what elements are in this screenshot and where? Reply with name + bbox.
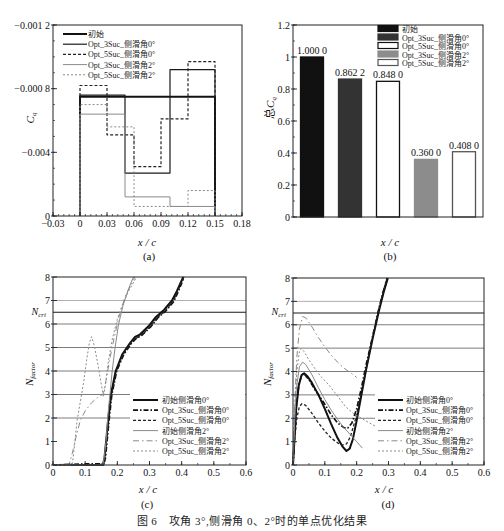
x-tick-label: 0.3 bbox=[382, 467, 395, 478]
y-tick-label: 1.2 bbox=[278, 20, 291, 31]
legend: 初始Opt_3Suc_侧滑角0°Opt_5Suc_侧滑角0°Opt_3Suc_侧… bbox=[378, 24, 469, 68]
y-tick-label: 6 bbox=[285, 319, 290, 330]
y-tick-label: 8 bbox=[285, 273, 290, 284]
legend-item: 初始 bbox=[63, 29, 104, 39]
bar bbox=[301, 57, 324, 217]
panel-d-ncri-label: Ncri bbox=[272, 307, 286, 319]
data-series-line bbox=[80, 114, 215, 216]
panel-d-x-axis-label: x / c bbox=[375, 484, 393, 495]
panel-c-ncri-label: Ncri bbox=[32, 307, 46, 319]
y-tick-label: 0 bbox=[45, 211, 50, 222]
y-tick-label: 0 bbox=[45, 460, 50, 471]
legend-label: Opt_3Suc_侧滑角2° bbox=[88, 60, 155, 70]
legend-label: Opt_5Suc_侧滑角2° bbox=[402, 58, 469, 68]
x-tick-label: 0.2 bbox=[111, 467, 124, 478]
legend-label: 初始 bbox=[402, 24, 418, 34]
y-tick-label: 7 bbox=[45, 295, 50, 306]
legend-swatch bbox=[378, 51, 398, 57]
x-tick-label: 0.1 bbox=[79, 467, 92, 478]
legend: 初始Opt_3Suc_侧滑角0°Opt_5Suc_侧滑角0°Opt_3Suc_侧… bbox=[63, 29, 155, 80]
y-tick-label: 4 bbox=[45, 366, 50, 377]
legend-label: Opt_5Suc_侧滑角2° bbox=[162, 446, 229, 456]
legend-label: 初始侧滑角2° bbox=[406, 426, 453, 436]
legend-label: Opt_3Suc_侧滑角0° bbox=[402, 33, 469, 43]
legend-label: Opt_3Suc_侧滑角0° bbox=[88, 39, 155, 49]
x-tick-label: 0 bbox=[291, 467, 296, 478]
legend: 初始侧滑角0°Opt_3Suc_侧滑角0°Opt_5Suc_侧滑角0°初始侧滑角… bbox=[130, 394, 245, 458]
legend-swatch bbox=[378, 26, 398, 32]
legend-item: 初始 bbox=[378, 24, 418, 34]
y-tick-label: 4 bbox=[285, 366, 290, 377]
panel-d-y-axis-label: Nfactor bbox=[262, 362, 275, 386]
data-series-line bbox=[80, 62, 215, 216]
panel-d-label: (d) bbox=[382, 499, 395, 510]
panel-a-x-axis-label: x / c bbox=[138, 237, 156, 248]
legend-item: Opt_3Suc_侧滑角0° bbox=[378, 33, 469, 43]
panel-a-label: (a) bbox=[143, 251, 155, 262]
legend-label: Opt_5Suc_侧滑角2° bbox=[88, 70, 155, 80]
x-tick-label: 0.5 bbox=[446, 467, 459, 478]
legend-item: Opt_3Suc_侧滑角2° bbox=[378, 50, 469, 60]
y-tick-label: 5 bbox=[285, 343, 290, 354]
legend-item: Opt_5Suc_侧滑角0° bbox=[378, 41, 469, 51]
x-tick-label: 0.2 bbox=[350, 467, 363, 478]
y-tick-label: 0.6 bbox=[278, 116, 291, 127]
bar-value-label: 0.848 0 bbox=[373, 69, 403, 80]
legend-label: Opt_3Suc_侧滑角2° bbox=[162, 436, 229, 446]
y-tick-label: 0.8 bbox=[278, 84, 291, 95]
legend-label: 初始侧滑角2° bbox=[162, 426, 209, 436]
y-tick-label: 8 bbox=[45, 272, 50, 283]
legend-swatch bbox=[378, 34, 398, 40]
legend-label: Opt_5Suc_侧滑角0° bbox=[406, 415, 473, 425]
legend-label: Opt_5Suc_侧滑角0° bbox=[162, 415, 229, 425]
y-tick-label: 3 bbox=[45, 389, 50, 400]
y-tick-label: −0.001 2 bbox=[14, 20, 50, 31]
y-tick-label: 2 bbox=[285, 413, 290, 424]
legend-item: Opt_5Suc_侧滑角0° bbox=[63, 49, 155, 59]
bar-value-label: 1.000 0 bbox=[297, 45, 327, 56]
y-tick-label: 0.2 bbox=[278, 180, 291, 191]
x-tick-label: 0.3 bbox=[143, 467, 156, 478]
y-tick-label: 1 bbox=[285, 52, 290, 63]
x-tick-label: 0.09 bbox=[152, 218, 170, 229]
y-tick-label: 0.4 bbox=[278, 148, 291, 159]
y-tick-label: 6 bbox=[45, 319, 50, 330]
legend-item: Opt_5Suc_侧滑角2° bbox=[63, 70, 155, 80]
x-tick-label: 0.6 bbox=[240, 467, 253, 478]
panel-b-x-axis-label: x / c bbox=[381, 237, 399, 248]
panel-c-x-axis-label: x / c bbox=[139, 484, 157, 495]
figure-6: −0.0300.030.060.090.120.150.180−0.004−0.… bbox=[0, 0, 504, 531]
x-tick-label: 0.12 bbox=[179, 218, 197, 229]
legend: 初始侧滑角0°Opt_3Suc_侧滑角0°Opt_5Suc_侧滑角0°初始侧滑角… bbox=[375, 394, 483, 458]
legend-label: Opt_3Suc_侧滑角2° bbox=[406, 436, 473, 446]
panel-b-plot: 1.000 00.862 20.848 00.360 00.408 000.20… bbox=[278, 20, 484, 223]
legend-label: Opt_5Suc_侧滑角0° bbox=[402, 41, 469, 51]
y-tick-label: 0 bbox=[285, 212, 290, 223]
bar bbox=[415, 159, 438, 217]
y-tick-label: −0.000 8 bbox=[14, 83, 50, 94]
figure-caption: 图 6 攻角 3°,侧滑角 0、2°时的单点优化结果 bbox=[137, 516, 368, 527]
panel-d-plot: 00.10.20.30.40.50.6012345678初始侧滑角0°Opt_3… bbox=[285, 273, 490, 479]
x-tick-label: 0.18 bbox=[233, 218, 251, 229]
y-tick-label: 1 bbox=[45, 436, 50, 447]
legend-swatch bbox=[378, 60, 398, 66]
legend-label: Opt_5Suc_侧滑角0° bbox=[88, 49, 155, 59]
x-tick-label: 0 bbox=[51, 467, 56, 478]
x-tick-label: 0.5 bbox=[208, 467, 221, 478]
legend-label: Opt_5Suc_侧滑角2° bbox=[406, 446, 473, 456]
x-tick-label: 0.15 bbox=[206, 218, 224, 229]
legend-item: Opt_5Suc_侧滑角2° bbox=[378, 58, 469, 68]
data-series-line bbox=[293, 348, 376, 465]
panel-b-y-axis-label: 总Cq bbox=[265, 97, 278, 119]
y-tick-label: 2 bbox=[45, 413, 50, 424]
x-tick-label: 0 bbox=[78, 218, 83, 229]
panel-c-label: (c) bbox=[141, 499, 153, 510]
legend-item: Opt_3Suc_侧滑角0° bbox=[63, 39, 155, 49]
panel-b-label: (b) bbox=[384, 251, 397, 262]
x-tick-label: 0.06 bbox=[125, 218, 143, 229]
panel-c-y-axis-label: Nfactor bbox=[24, 362, 37, 386]
data-series-line bbox=[80, 105, 215, 216]
legend-label: 初始侧滑角0° bbox=[162, 395, 209, 405]
bar bbox=[377, 81, 400, 217]
panel-c-plot: 00.10.20.30.40.50.6012345678初始侧滑角0°Opt_3… bbox=[45, 272, 252, 479]
